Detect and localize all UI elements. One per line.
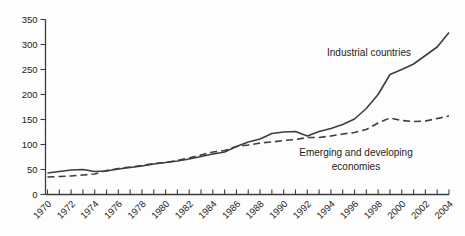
x-tick-label: 1996 xyxy=(338,198,361,221)
emerging-economies-label-text: economies xyxy=(332,161,380,172)
x-tick-label: 1986 xyxy=(220,198,243,221)
y-tick-label: 150 xyxy=(22,114,38,125)
x-tick-label: 1982 xyxy=(172,198,195,221)
emerging-economies-label: Emerging and developingeconomies xyxy=(299,147,412,172)
x-tick-label: 2004 xyxy=(432,198,455,221)
x-tick-label: 1974 xyxy=(78,198,101,221)
chart-canvas: 0501001502002503003501970197219741976197… xyxy=(0,0,465,236)
x-tick-label: 1994 xyxy=(314,198,337,221)
y-tick-label: 50 xyxy=(27,164,38,175)
y-tick-label: 250 xyxy=(22,64,38,75)
x-tick-label: 1972 xyxy=(54,198,77,221)
y-tick-label: 350 xyxy=(22,14,38,25)
y-tick-label: 100 xyxy=(22,139,38,150)
x-tick-label: 1984 xyxy=(196,198,219,221)
y-tick-label: 200 xyxy=(22,89,38,100)
x-tick-label: 1976 xyxy=(102,198,125,221)
x-tick-label: 2000 xyxy=(385,198,408,221)
y-tick-label: 300 xyxy=(22,39,38,50)
x-tick-label: 2002 xyxy=(409,198,432,221)
emerging-economies-label-text: Emerging and developing xyxy=(299,147,412,158)
y-tick-label: 0 xyxy=(32,189,37,200)
x-tick-label: 1990 xyxy=(267,198,290,221)
industrial-countries-label-text: Industrial countries xyxy=(327,47,411,58)
x-tick-label: 1980 xyxy=(149,198,172,221)
industrial-countries-label: Industrial countries xyxy=(327,47,411,58)
x-tick-label: 1978 xyxy=(125,198,148,221)
line-chart-figure: 0501001502002503003501970197219741976197… xyxy=(0,0,465,236)
y-axis: 050100150200250300350 xyxy=(22,14,46,200)
x-tick-label: 1998 xyxy=(361,198,384,221)
x-tick-label: 1988 xyxy=(243,198,266,221)
x-tick-label: 1992 xyxy=(290,198,313,221)
x-axis: 1970197219741976197819801982198419861988… xyxy=(31,190,455,221)
x-tick-label: 1970 xyxy=(31,198,54,221)
